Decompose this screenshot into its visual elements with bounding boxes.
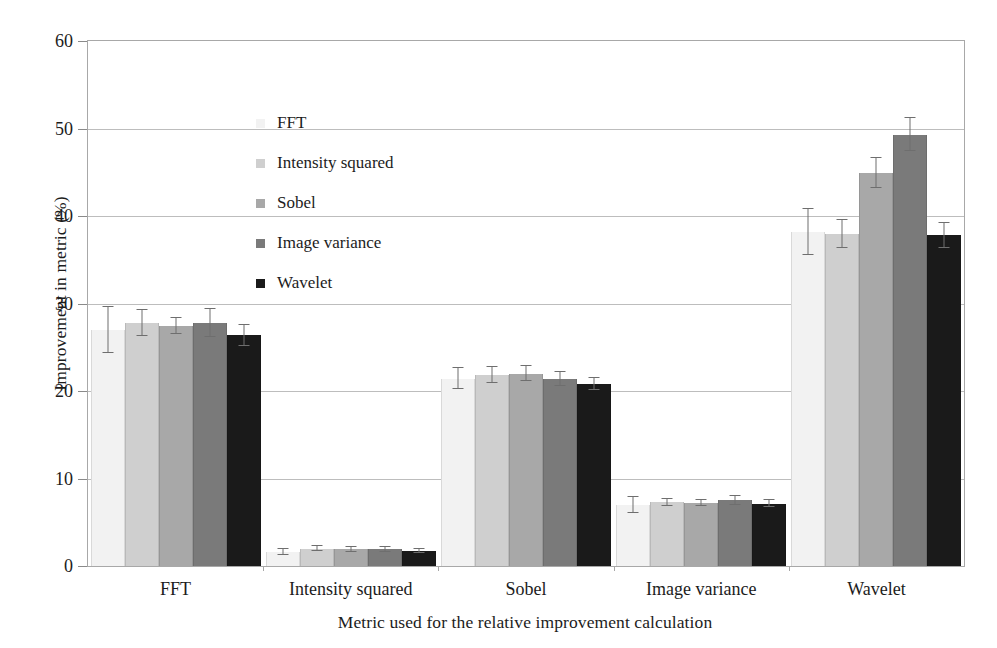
bar-group (791, 41, 961, 566)
error-bar-cap-bottom (311, 550, 322, 551)
bar-slot (509, 41, 543, 566)
legend-label: Sobel (277, 193, 316, 213)
plot-area: 0102030405060 FFTIntensity squaredSobelI… (87, 40, 965, 567)
bar-slot (927, 41, 961, 566)
error-bar-cap-bottom (521, 380, 532, 381)
x-tick-mark (263, 566, 264, 571)
error-bar-cap-top (589, 377, 600, 378)
bar[interactable] (650, 502, 684, 566)
legend-item[interactable]: FFT (256, 103, 394, 143)
bar[interactable] (825, 234, 859, 566)
y-tick-label: 10 (55, 468, 73, 489)
bar[interactable] (402, 551, 436, 566)
error-bar-cap-top (628, 496, 639, 497)
error-bar-cap-bottom (555, 385, 566, 386)
error-bar (526, 366, 527, 382)
bar-slot (650, 41, 684, 566)
y-tick-mark (78, 566, 87, 567)
bar[interactable] (125, 323, 159, 566)
bar-series-container (88, 41, 964, 566)
legend-swatch-icon (256, 119, 265, 128)
error-bar-cap-bottom (871, 187, 882, 188)
legend-label: FFT (277, 113, 306, 133)
error-bar (808, 209, 809, 255)
error-bar-cap-top (662, 498, 673, 499)
error-bar-cap-bottom (413, 552, 424, 553)
bar[interactable] (227, 335, 261, 566)
legend-swatch-icon (256, 159, 265, 168)
y-tick-label: 30 (55, 293, 73, 314)
error-bar-cap-bottom (662, 505, 673, 506)
y-tick-label: 40 (55, 206, 73, 227)
error-bar-cap-bottom (764, 506, 775, 507)
bar[interactable] (91, 330, 125, 566)
bar[interactable] (159, 326, 193, 566)
y-tick-label: 0 (64, 556, 73, 577)
bar[interactable] (300, 549, 334, 567)
legend-label: Image variance (277, 233, 381, 253)
bar[interactable] (893, 135, 927, 566)
error-bar-cap-top (311, 545, 322, 546)
legend-item[interactable]: Intensity squared (256, 143, 394, 183)
bar[interactable] (334, 549, 368, 566)
y-tick-label: 50 (55, 118, 73, 139)
bar[interactable] (509, 374, 543, 567)
bar[interactable] (752, 504, 786, 566)
bar[interactable] (475, 375, 509, 566)
legend-item[interactable]: Sobel (256, 183, 394, 223)
legend-item[interactable]: Image variance (256, 223, 394, 263)
y-tick-label: 20 (55, 381, 73, 402)
x-tick-label: Image variance (646, 579, 756, 600)
legend: FFTIntensity squaredSobelImage varianceW… (256, 103, 394, 303)
error-bar (458, 368, 459, 389)
bar-slot (402, 41, 436, 566)
x-tick-label: Sobel (505, 579, 546, 600)
error-bar-cap-bottom (345, 551, 356, 552)
error-bar-cap-bottom (379, 551, 390, 552)
error-bar-cap-bottom (238, 345, 249, 346)
bar-group (91, 41, 261, 566)
bar-slot (752, 41, 786, 566)
legend-label: Intensity squared (277, 153, 394, 173)
bar[interactable] (577, 384, 611, 566)
error-bar-cap-top (905, 117, 916, 118)
bar[interactable] (441, 379, 475, 566)
bar-slot (577, 41, 611, 566)
error-bar-cap-bottom (277, 554, 288, 555)
error-bar-cap-top (521, 365, 532, 366)
error-bar-cap-bottom (102, 352, 113, 353)
error-bar-cap-bottom (939, 247, 950, 248)
legend-swatch-icon (256, 239, 265, 248)
bar-slot (441, 41, 475, 566)
error-bar-cap-top (277, 548, 288, 549)
error-bar-cap-top (204, 308, 215, 309)
error-bar-cap-top (696, 499, 707, 500)
error-bar-cap-bottom (453, 388, 464, 389)
bar[interactable] (616, 505, 650, 566)
x-tick-label: FFT (160, 579, 191, 600)
error-bar-cap-top (345, 546, 356, 547)
error-bar-cap-top (764, 499, 775, 500)
bar[interactable] (859, 173, 893, 566)
bar[interactable] (927, 235, 961, 566)
legend-swatch-icon (256, 279, 265, 288)
error-bar (842, 220, 843, 248)
error-bar-cap-bottom (696, 505, 707, 506)
error-bar-cap-top (837, 219, 848, 220)
bar[interactable] (193, 323, 227, 566)
error-bar-cap-bottom (628, 512, 639, 513)
error-bar (910, 118, 911, 151)
error-bar-cap-bottom (905, 150, 916, 151)
legend-item[interactable]: Wavelet (256, 263, 394, 303)
bar-slot (616, 41, 650, 566)
error-bar-cap-top (102, 306, 113, 307)
error-bar (492, 367, 493, 383)
bar[interactable] (791, 232, 825, 566)
bar[interactable] (718, 500, 752, 566)
error-bar-cap-bottom (730, 504, 741, 505)
bar[interactable] (368, 549, 402, 566)
error-bar (944, 223, 945, 248)
bar-slot (893, 41, 927, 566)
bar[interactable] (684, 503, 718, 566)
bar[interactable] (543, 379, 577, 566)
